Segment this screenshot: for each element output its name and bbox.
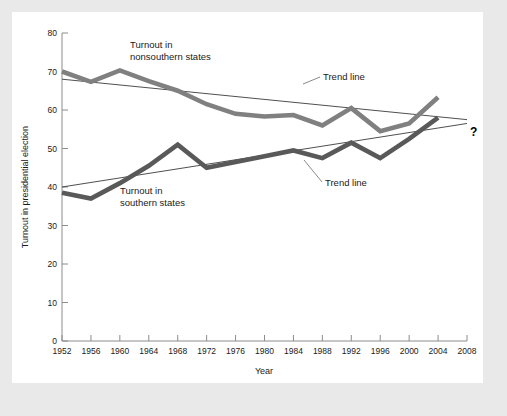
y-tick-label: 20: [48, 259, 58, 269]
x-tick-label: 1968: [168, 346, 187, 356]
southern-label-line2: southern states: [120, 197, 185, 208]
y-axis-title: Turnout in presidential election: [20, 126, 30, 248]
y-tick-label: 0: [52, 336, 57, 346]
leader-line-upper-trend: [303, 77, 320, 84]
y-axis-ticks: 01020304050607080: [48, 28, 68, 346]
southern-label-line1: Turnout in: [120, 185, 162, 196]
series-line-nonsouthern: [62, 70, 438, 131]
y-tick-label: 70: [48, 67, 58, 77]
nonsouthern-label-line1: Turnout in: [130, 39, 172, 50]
trend-label-upper: Trend line: [323, 71, 365, 82]
chart-figure: 01020304050607080 1952195619601964196819…: [12, 12, 483, 383]
trend-line-nonsouthern: [62, 79, 467, 119]
x-tick-label: 1952: [53, 346, 72, 356]
trend-label-lower: Trend line: [325, 177, 367, 188]
x-tick-label: 2004: [429, 346, 448, 356]
x-tick-label: 2008: [458, 346, 477, 356]
x-tick-label: 1960: [110, 346, 129, 356]
x-tick-label: 1992: [342, 346, 361, 356]
y-tick-label: 80: [48, 28, 58, 38]
y-tick-label: 60: [48, 105, 58, 115]
y-tick-label: 30: [48, 221, 58, 231]
x-tick-label: 2000: [400, 346, 419, 356]
x-axis-title: Year: [255, 366, 273, 376]
x-axis-ticks: 1952195619601964196819721976198019841988…: [53, 335, 477, 356]
x-tick-label: 1964: [139, 346, 158, 356]
x-tick-label: 1972: [197, 346, 216, 356]
y-tick-label: 10: [48, 298, 58, 308]
leader-line-lower-trend: [304, 160, 322, 182]
x-tick-label: 1988: [313, 346, 332, 356]
x-tick-label: 1984: [284, 346, 303, 356]
y-tick-label: 40: [48, 182, 58, 192]
future-question-marker: ?: [470, 125, 477, 139]
y-tick-label: 50: [48, 144, 58, 154]
x-tick-label: 1996: [371, 346, 390, 356]
nonsouthern-label-line2: nonsouthern states: [130, 51, 211, 62]
x-tick-label: 1956: [81, 346, 100, 356]
turnout-line-chart: 01020304050607080 1952195619601964196819…: [12, 12, 483, 383]
x-tick-label: 1976: [226, 346, 245, 356]
x-tick-label: 1980: [255, 346, 274, 356]
